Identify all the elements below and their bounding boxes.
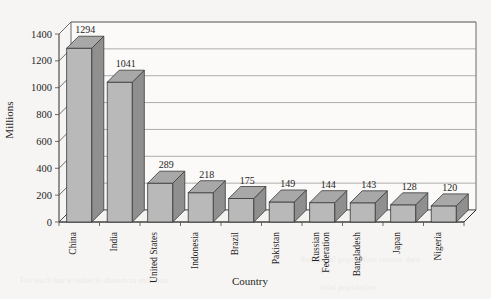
y-tick-label: 1400 <box>31 29 52 40</box>
category-label: Russian <box>311 232 321 262</box>
y-tick-label: 600 <box>36 136 52 147</box>
bar-front-face <box>310 203 335 222</box>
category-label: India <box>109 231 119 251</box>
y-tick-connector <box>59 22 71 34</box>
bar-value-label: 120 <box>442 182 457 193</box>
y-axis-title: Millions <box>3 101 15 138</box>
bar-front-face <box>188 193 213 222</box>
y-tick-label: 400 <box>36 163 52 174</box>
category-label: Nigeria <box>433 231 443 260</box>
y-tick-label: 1000 <box>31 82 52 93</box>
bar-value-label: 143 <box>361 179 376 190</box>
category-label: Bangladesh <box>352 232 362 277</box>
category-label: China <box>68 231 78 254</box>
svg-text:For each bar a value is shown: For each bar a value is shown in million… <box>20 275 168 285</box>
svg-text:total population: total population <box>320 282 377 292</box>
bar-front-face <box>107 82 132 222</box>
bar-front-face <box>350 203 375 222</box>
y-tick-label: 800 <box>36 109 52 120</box>
x-axis-title: Country <box>232 275 269 287</box>
bar-side-face <box>132 70 144 222</box>
y-tick-label: 0 <box>47 217 52 228</box>
bar-front-face <box>148 183 173 222</box>
category-label: Japan <box>392 232 402 254</box>
bar-front-face <box>67 48 92 222</box>
category-label: United States <box>149 232 159 283</box>
bar-value-label: 218 <box>199 169 214 180</box>
bar-value-label: 175 <box>240 175 255 186</box>
bar-side-face <box>92 36 104 222</box>
category-label: Indonesia <box>190 231 200 269</box>
y-tick-label: 200 <box>36 190 52 201</box>
bar-value-label: 1294 <box>75 24 95 35</box>
bar-value-label: 144 <box>321 179 336 190</box>
bar-front-face <box>391 205 416 222</box>
bar-front-face <box>431 206 456 222</box>
y-tick-label: 1200 <box>31 55 52 66</box>
population-bar-chart: the global population census data For ea… <box>0 0 491 299</box>
bar-front-face <box>269 202 294 222</box>
bar-value-label: 289 <box>159 159 174 170</box>
category-label: Brazil <box>230 232 240 256</box>
category-label: Pakistan <box>271 232 281 264</box>
bar-value-label: 149 <box>280 178 295 189</box>
x-axis-ticks <box>59 222 464 226</box>
bar-value-label: 1041 <box>116 58 136 69</box>
bar-front-face <box>229 199 254 223</box>
category-label: Federation <box>321 232 331 273</box>
bar-value-label: 128 <box>402 181 417 192</box>
